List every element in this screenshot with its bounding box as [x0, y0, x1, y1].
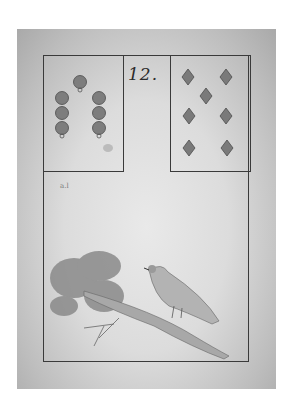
bird-icon	[44, 56, 250, 363]
playing-card: 12. a.l	[17, 29, 276, 389]
card-frame: 12. a.l	[43, 55, 249, 362]
